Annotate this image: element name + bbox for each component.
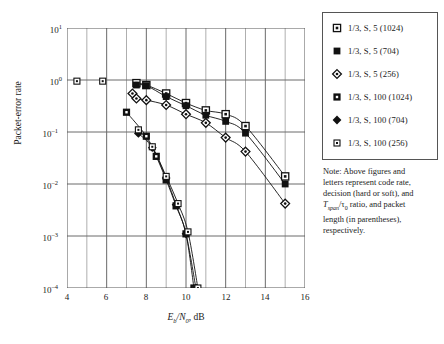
data-point-small-open-square-dot xyxy=(100,78,106,84)
x-tick-label-10: 10 xyxy=(176,292,196,302)
data-point-filled-square xyxy=(334,48,341,55)
data-point-open-square-dot xyxy=(242,122,249,129)
legend-item-label: 1/3, S, 5 (1024) xyxy=(348,23,403,33)
data-point-filled-square xyxy=(183,102,190,109)
y-axis-title: Packet-error rate xyxy=(13,43,23,183)
legend-item-S5-1024[interactable]: 1/3, S, 5 (1024) xyxy=(329,19,403,37)
legend-item-S100-1024[interactable]: 1/3, S, 100 (1024) xyxy=(329,88,412,106)
x-axis-title-unit: , dB xyxy=(189,312,205,322)
y-tick-label-1e1: 101 xyxy=(36,23,62,35)
legend-item-label: 1/3, S, 5 (704) xyxy=(348,46,399,56)
legend-item-label: 1/3, S, 100 (704) xyxy=(348,115,408,125)
data-point-open-diamond-dot xyxy=(162,101,171,110)
legend-item-S5-704[interactable]: 1/3, S, 5 (704) xyxy=(329,42,399,60)
data-point-small-open-square-dot xyxy=(135,127,141,133)
y-tick-label-1em1: 10–1 xyxy=(32,127,58,139)
lead-in xyxy=(77,81,138,130)
data-point-small-open-square-dot xyxy=(74,78,80,84)
legend-item-S100-704[interactable]: 1/3, S, 100 (704) xyxy=(329,111,408,129)
data-point-filled-square xyxy=(133,82,140,89)
y-tick-label-1em2: 10–2 xyxy=(32,179,58,191)
note-line-4-post: ratio, and packet xyxy=(348,200,406,209)
legend-item-S100-256[interactable]: 1/3, S, 100 (256) xyxy=(329,134,408,152)
legend-box: 1/3, S, 5 (1024)1/3, S, 5 (704)1/3, S, 5… xyxy=(322,12,438,160)
data-point-filled-square-dot xyxy=(333,93,340,100)
note-line-6: respectively. xyxy=(323,226,365,235)
open-square-dot-icon xyxy=(329,21,345,35)
data-point-filled-square xyxy=(242,130,249,137)
data-point-small-open-square-dot xyxy=(185,229,191,235)
filled-diamond-icon xyxy=(329,113,345,127)
y-tick-label-1e0: 100 xyxy=(36,75,62,87)
note-line-2: letters represent code rate, xyxy=(323,178,411,187)
data-point-filled-square-dot xyxy=(143,133,150,140)
curve xyxy=(136,85,285,184)
gridlines xyxy=(67,28,305,288)
data-point-open-square-dot xyxy=(333,24,340,31)
data-point-small-open-square-dot xyxy=(163,173,169,179)
x-axis-title-sub-b: b xyxy=(173,317,176,324)
data-point-filled-square xyxy=(163,93,170,100)
data-point-filled-square xyxy=(282,181,289,188)
data-point-open-diamond-dot xyxy=(281,199,290,208)
data-point-small-open-square-dot xyxy=(149,144,155,150)
x-tick-label-6: 6 xyxy=(96,292,116,302)
note-line-3: decision (hard or soft), and xyxy=(323,189,413,198)
x-tick-label-12: 12 xyxy=(216,292,236,302)
curve xyxy=(127,112,194,288)
chart-note: Note: Above figures and letters represen… xyxy=(323,166,441,236)
data-point-filled-square-dot xyxy=(153,153,160,160)
x-tick-label-8: 8 xyxy=(136,292,156,302)
y-tick-label-1em3: 10–3 xyxy=(32,231,58,243)
legend-item-label: 1/3, S, 100 (1024) xyxy=(348,92,412,102)
data-point-filled-square xyxy=(143,82,150,89)
legend-item-label: 1/3, S, 5 (256) xyxy=(348,69,399,79)
data-point-open-diamond-dot xyxy=(142,96,151,105)
packet-error-rate-figure: Packet-error rate 101 100 10–1 10–2 10–3… xyxy=(0,0,444,344)
data-point-small-open-square-dot xyxy=(334,140,340,146)
curve xyxy=(138,130,198,288)
data-point-open-square-dot xyxy=(222,111,229,118)
note-line-5: length (in parentheses), xyxy=(323,215,401,224)
data-point-small-open-square-dot xyxy=(195,285,201,288)
x-axis-title: Eb/N0, dB xyxy=(67,312,305,324)
x-tick-label-16: 16 xyxy=(295,292,315,302)
data-point-open-diamond-dot xyxy=(182,110,191,119)
data-point-small-open-square-dot xyxy=(175,201,181,207)
data-point-filled-square xyxy=(222,118,229,125)
note-line-1: Note: Above figures and xyxy=(323,167,405,176)
y-tick-label-1em4: 10–4 xyxy=(32,283,58,295)
small-open-square-dot-icon xyxy=(329,136,345,150)
legend-item-S5-256[interactable]: 1/3, S, 5 (256) xyxy=(329,65,399,83)
legend-item-label: 1/3, S, 100 (256) xyxy=(348,138,408,148)
x-tick-label-14: 14 xyxy=(255,292,275,302)
filled-square-dot-icon xyxy=(329,90,345,104)
plot-canvas xyxy=(67,28,305,288)
data-point-filled-diamond xyxy=(333,116,342,125)
plot-area xyxy=(67,28,305,288)
filled-square-icon xyxy=(329,44,345,58)
data-curves xyxy=(77,81,285,288)
x-tick-label-4: 4 xyxy=(57,292,77,302)
data-point-filled-square-dot xyxy=(123,109,130,116)
note-tspan-sub: span xyxy=(328,205,339,211)
data-point-open-square-dot xyxy=(282,173,289,180)
curve xyxy=(138,133,196,288)
data-point-open-diamond-dot xyxy=(201,118,210,127)
open-diamond-dot-icon xyxy=(329,67,345,81)
data-point-open-diamond-dot xyxy=(221,133,230,142)
data-point-open-diamond-dot xyxy=(333,70,342,79)
